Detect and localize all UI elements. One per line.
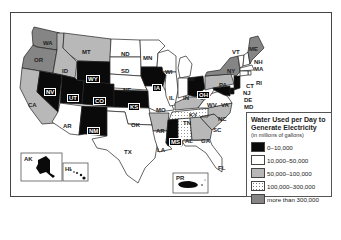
label-MO: MO (156, 107, 166, 113)
label-OK: OK (131, 122, 140, 128)
label-WA: WA (43, 40, 53, 46)
label-AZ: AR (63, 123, 72, 129)
label-GA: GA (201, 138, 210, 144)
label-NJ: NJ (243, 90, 251, 96)
label-KS: KS (128, 103, 140, 111)
label-CO: CO (93, 97, 106, 105)
state-NJ[interactable] (234, 76, 240, 90)
label-ME: ME (249, 46, 258, 52)
label-MI: MI (188, 76, 195, 82)
label-AL: AL (185, 138, 193, 144)
label-MS: MS (169, 138, 182, 146)
label-AR: AR (156, 128, 165, 134)
label-MN: MN (143, 55, 152, 61)
label-OH: OH (197, 91, 210, 99)
state-FL[interactable] (182, 140, 222, 172)
label-IA: IA (152, 84, 162, 92)
legend-item-50000-100000: 50,000–100,000 (251, 167, 327, 179)
label-UT: UT (67, 94, 79, 102)
label-PR: PR (176, 175, 184, 181)
label-WV: WV (207, 102, 217, 108)
legend-label: 0–10,000 (267, 144, 293, 151)
state-DE[interactable] (230, 88, 234, 94)
legend-item-100000-300000: 100,000–300,000 (251, 180, 327, 192)
label-TN: TN (183, 120, 191, 126)
state-CT[interactable] (240, 71, 248, 76)
legend-item-10000-50000: 10,000–50,000 (251, 154, 327, 166)
label-CT: CT (246, 83, 254, 89)
legend-title-line1: Water Used per Day to (251, 116, 327, 124)
legend-subtitle: (in millions of gallons) (251, 132, 327, 139)
legend-title-line2: Generate Electricity (251, 124, 327, 132)
legend-swatch-dotted (251, 181, 265, 191)
state-MI[interactable] (178, 56, 192, 78)
label-FL: FL (218, 165, 225, 171)
label-NC: NC (218, 116, 227, 122)
label-DE: DE (244, 97, 252, 103)
label-NE: NE (123, 87, 131, 93)
label-ND: ND (121, 51, 130, 57)
label-SD: SD (121, 68, 129, 74)
legend-item-more-than-300000: more than 300,000 (251, 193, 327, 205)
label-TX: TX (124, 149, 132, 155)
label-IN: IN (183, 95, 189, 101)
legend-swatch-white (251, 155, 265, 165)
label-NY: NY (227, 68, 235, 74)
label-IL: IL (169, 95, 174, 101)
map-legend: Water Used per Day to Generate Electrici… (246, 112, 332, 197)
label-OR: OR (34, 57, 43, 63)
label-VT: VT (232, 49, 240, 55)
legend-swatch-dark-gray (251, 194, 265, 204)
label-WI: WI (165, 69, 172, 75)
label-RI: RI (256, 80, 262, 86)
state-RI[interactable] (248, 71, 251, 75)
legend-label: 100,000–300,000 (267, 183, 315, 190)
label-VA: VA (221, 102, 229, 108)
legend-label: more than 300,000 (267, 196, 319, 203)
label-PA: PA (219, 82, 227, 88)
label-NV: NV (44, 88, 56, 96)
label-CA: CA (28, 102, 37, 108)
legend-swatch-light-gray (251, 168, 265, 178)
legend-label: 50,000–100,000 (267, 170, 312, 177)
label-LA: LA (157, 147, 165, 153)
label-KY: KY (189, 112, 197, 118)
label-AK: AK (24, 156, 33, 162)
label-NM: NM (87, 127, 100, 135)
label-HI: HI (65, 166, 71, 172)
label-MA: MA (254, 66, 263, 72)
label-MD: MD (244, 104, 253, 110)
label-ID: ID (62, 68, 68, 74)
label-MT: MT (82, 49, 91, 55)
label-WY: WY (86, 75, 100, 83)
legend-item-0-10000: 0–10,000 (251, 141, 327, 153)
label-NH: NH (254, 59, 263, 65)
legend-swatch-black (251, 142, 265, 152)
legend-label: 10,000–50,000 (267, 157, 308, 164)
label-SC: SC (213, 127, 221, 133)
